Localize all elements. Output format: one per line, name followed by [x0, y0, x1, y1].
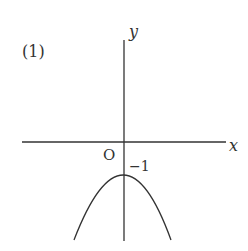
x-axis-label: x — [229, 136, 238, 155]
vertex-label: −1 — [129, 158, 150, 174]
graph-diagram: (1) y x O −1 — [0, 0, 248, 251]
origin-label: O — [103, 146, 115, 164]
figure-label: (1) — [22, 42, 45, 61]
parabola-curve — [74, 175, 171, 240]
y-axis-label: y — [128, 22, 139, 41]
